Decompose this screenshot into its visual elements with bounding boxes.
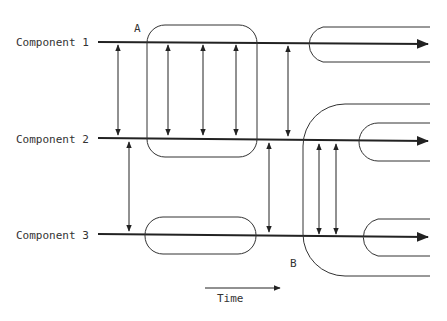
region-a-box xyxy=(147,25,257,157)
region-b-box xyxy=(303,104,430,276)
component-1-label: Component 1 xyxy=(16,36,89,49)
marker-a: A xyxy=(134,22,141,35)
time-label: Time xyxy=(217,292,244,305)
component-2-label: Component 2 xyxy=(16,133,89,146)
marker-b: B xyxy=(290,257,297,270)
component-3-label: Component 3 xyxy=(16,229,89,242)
timeline-diagram: Component 1 Component 2 Component 3 A B … xyxy=(0,0,447,321)
component-3-timeline xyxy=(98,234,428,237)
component-2-continuation xyxy=(359,123,430,161)
